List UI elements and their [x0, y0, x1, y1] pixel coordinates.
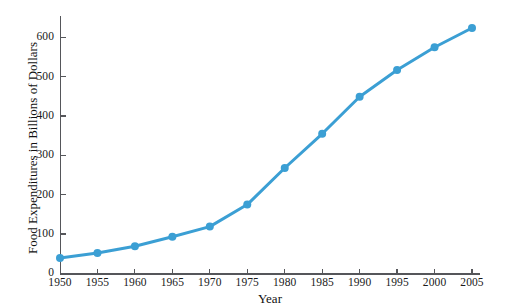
data-point: [468, 24, 476, 32]
data-series-layer: [0, 0, 505, 307]
data-point: [168, 233, 176, 241]
data-point: [318, 130, 326, 138]
series-line: [60, 28, 472, 258]
plot-area: 0100200300400500600 19501955196019651970…: [0, 0, 505, 307]
data-point: [243, 201, 251, 209]
data-point: [281, 164, 289, 172]
data-point: [206, 223, 214, 231]
data-point: [56, 254, 64, 262]
data-point: [393, 66, 401, 74]
data-point: [93, 249, 101, 257]
data-point: [431, 43, 439, 51]
chart-container: 0100200300400500600 19501955196019651970…: [0, 0, 505, 307]
data-point: [356, 93, 364, 101]
data-point: [131, 242, 139, 250]
